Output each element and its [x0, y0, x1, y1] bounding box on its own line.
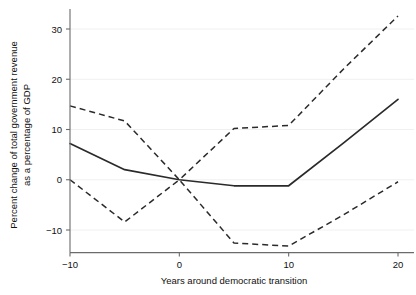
y-axis-title-line1: Percent change of total government reven…	[8, 41, 19, 228]
revenue-transition-chart: −100102030 −1001020 Years around democra…	[0, 0, 416, 295]
y-axis-title-line2: as a percentage of GDP	[21, 84, 32, 186]
chart-background	[0, 0, 416, 295]
y-tick-label: 30	[51, 24, 62, 35]
y-tick-label: 10	[51, 124, 62, 135]
x-tick-label: −10	[62, 259, 78, 270]
y-tick-label: 20	[51, 74, 62, 85]
y-tick-label: 0	[57, 174, 62, 185]
x-tick-label: 0	[177, 259, 182, 270]
x-tick-label: 10	[283, 259, 294, 270]
y-tick-label: −10	[46, 225, 62, 236]
x-tick-label: 20	[393, 259, 404, 270]
x-axis-title: Years around democratic transition	[161, 275, 307, 286]
